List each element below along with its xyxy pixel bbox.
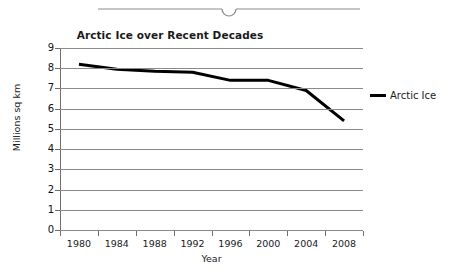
x-axis-label-2004: 2004 [286,238,326,249]
legend-swatch-arctic-ice [370,94,386,97]
gridline-y-5 [60,129,363,130]
y-axis-label-2: 2 [26,185,54,195]
gridline-y-2 [60,190,363,191]
gridline-y-9 [60,48,363,49]
x-axis-label-2008: 2008 [324,238,364,249]
y-axis-label-6: 6 [26,104,54,114]
x-axis-label-1988: 1988 [135,238,175,249]
x-tick-7 [325,231,326,236]
y-axis-tick-labels: 9876543210 [22,24,54,277]
divider-handle[interactable] [98,4,360,20]
legend-label-arctic-ice: Arctic Ice [390,90,436,101]
chart-container: Arctic Ice over Recent Decades Millions … [0,24,457,277]
x-axis-label-1996: 1996 [210,238,250,249]
y-tick-9 [55,48,60,49]
y-tick-7 [55,88,60,89]
x-tick-6 [287,231,288,236]
y-axis-label-9: 9 [26,43,54,53]
x-tick-0 [60,231,61,236]
gridline-y-4 [60,149,363,150]
y-axis-title: Millions sq km [11,53,22,183]
y-axis-label-8: 8 [26,63,54,73]
x-axis-label-1980: 1980 [59,238,99,249]
gridline-y-3 [60,169,363,170]
divider-handle-icon [98,4,360,20]
y-tick-8 [55,68,60,69]
gridline-y-7 [60,88,363,89]
gridline-y-8 [60,68,363,69]
y-axis-label-7: 7 [26,83,54,93]
y-axis-label-0: 0 [26,225,54,235]
x-tick-4 [212,231,213,236]
y-tick-1 [55,210,60,211]
y-tick-4 [55,149,60,150]
chart-legend: Arctic Ice [370,90,436,101]
y-axis-label-4: 4 [26,144,54,154]
y-tick-3 [55,169,60,170]
gridline-y-6 [60,109,363,110]
y-axis-label-1: 1 [26,205,54,215]
x-tick-1 [98,231,99,236]
y-tick-5 [55,129,60,130]
x-tick-5 [249,231,250,236]
y-tick-2 [55,190,60,191]
x-tick-3 [174,231,175,236]
y-axis-label-3: 3 [26,164,54,174]
gridline-y-1 [60,210,363,211]
x-axis-label-2000: 2000 [248,238,288,249]
y-axis-label-5: 5 [26,124,54,134]
series-line-arctic-ice [79,64,344,121]
series-arctic-ice-line [60,48,363,230]
y-tick-6 [55,109,60,110]
x-tick-2 [136,231,137,236]
x-axis-label-1992: 1992 [173,238,213,249]
x-axis-title: Year [60,253,363,264]
x-tick-8 [363,231,364,236]
x-axis-label-1984: 1984 [97,238,137,249]
plot-area [60,48,363,230]
